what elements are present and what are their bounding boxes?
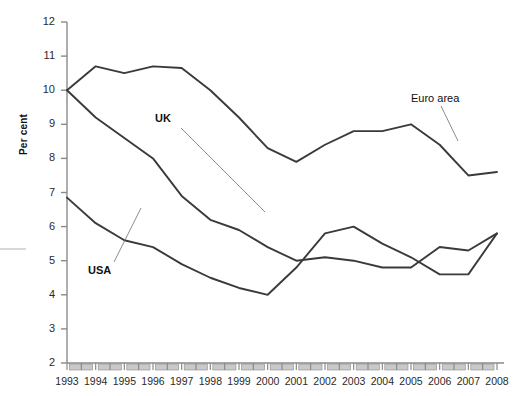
- series-line-uk: [67, 90, 497, 267]
- axis-ticks: [61, 22, 497, 370]
- line-chart: Per cent 12111098765432 1993199419951996…: [0, 0, 527, 396]
- annotation-leader-lines: [114, 106, 458, 262]
- plot-area: [0, 0, 527, 396]
- leader-line-euro-area: [441, 106, 458, 141]
- data-series-lines: [67, 66, 497, 294]
- series-line-usa: [67, 198, 497, 295]
- series-line-euro-area: [67, 66, 497, 175]
- leader-line-usa: [114, 208, 141, 262]
- axes: [67, 22, 504, 363]
- leader-line-uk: [181, 128, 265, 212]
